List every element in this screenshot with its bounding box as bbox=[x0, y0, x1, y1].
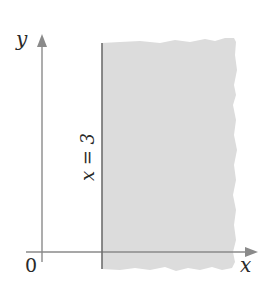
y-axis-label: y bbox=[15, 27, 28, 51]
y-axis-arrow-icon bbox=[37, 34, 47, 47]
shaded-region bbox=[102, 38, 237, 271]
region-diagram: y 0 x x = 3 bbox=[0, 0, 273, 301]
x-axis-label: x bbox=[240, 253, 251, 277]
boundary-line-label: x = 3 bbox=[77, 133, 98, 181]
origin-label: 0 bbox=[25, 254, 37, 276]
